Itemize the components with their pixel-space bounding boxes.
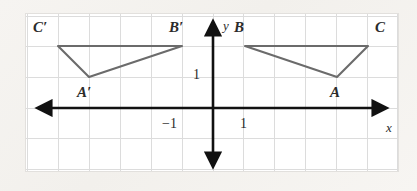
triangle-abc <box>245 46 368 77</box>
vertex-label-a: A <box>330 85 340 100</box>
tick-label-x-neg1: −1 <box>162 117 177 131</box>
geometry-diagram-screenshot: C′ B′ A′ B C A y x 1 −1 1 <box>0 0 417 191</box>
triangle-a-prime-b-prime-c-prime <box>58 46 182 77</box>
tick-label-y-1: 1 <box>193 68 200 82</box>
vertex-label-c: C <box>375 20 385 35</box>
tick-label-x-1: 1 <box>240 117 247 131</box>
vertex-label-a-prime: A′ <box>77 85 91 100</box>
vertex-label-c-prime: C′ <box>33 20 47 35</box>
vertex-label-b: B <box>234 20 244 35</box>
vertex-label-b-prime: B′ <box>169 20 183 35</box>
y-axis-label: y <box>223 19 229 32</box>
x-axis-label: x <box>386 121 392 134</box>
